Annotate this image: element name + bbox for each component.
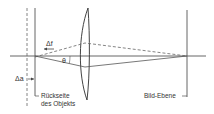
theta-label: θ (62, 57, 66, 64)
delta-a-arrowhead (31, 78, 34, 81)
des-objekts-label: des Objekts (41, 100, 76, 108)
theta-arc (69, 56, 70, 64)
dashed-ray (35, 43, 187, 57)
bild-ebene-label: Bild-Ebene (144, 92, 176, 99)
delta-f-label: Δf (46, 40, 53, 47)
optics-diagram: Δf θ Δa Rückseite des Objekts Bild-Ebene (0, 0, 214, 114)
lens (80, 8, 89, 100)
delta-a-label: Δa (15, 75, 24, 82)
rueckseite-label: Rückseite (41, 92, 70, 99)
delta-f-arrowhead (44, 48, 47, 51)
solid-ray (35, 56, 187, 67)
